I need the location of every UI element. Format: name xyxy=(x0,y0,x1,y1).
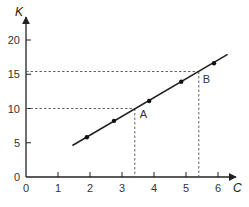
data-point xyxy=(212,61,216,65)
x-tick-label: 4 xyxy=(151,182,157,194)
chart: K C 0123456 05101520 A B xyxy=(0,0,249,207)
x-tick-label: 1 xyxy=(55,182,61,194)
x-tick-label: 3 xyxy=(119,182,125,194)
y-tick-label: 10 xyxy=(8,103,20,115)
data-point xyxy=(112,119,116,123)
y-tick-label: 15 xyxy=(8,68,20,80)
y-tick-label: 20 xyxy=(8,34,20,46)
data-point xyxy=(147,99,151,103)
x-axis-title: C xyxy=(233,181,242,195)
point-a-label: A xyxy=(140,108,148,120)
x-tick-label: 6 xyxy=(215,182,221,194)
y-tick-label: 5 xyxy=(14,137,20,149)
data-point xyxy=(85,135,89,139)
point-b-label: B xyxy=(203,73,210,85)
x-tick-label: 0 xyxy=(23,182,29,194)
data-point xyxy=(179,80,183,84)
y-axis-title: K xyxy=(15,5,24,19)
x-tick-label: 2 xyxy=(87,182,93,194)
x-ticks: 0123456 xyxy=(23,172,221,194)
y-tick-label: 0 xyxy=(14,171,20,183)
x-tick-label: 5 xyxy=(183,182,189,194)
